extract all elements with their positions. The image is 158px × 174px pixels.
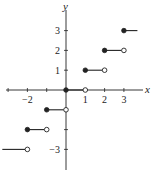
x-tick-label: −2 [22,94,33,105]
open-endpoint [83,88,88,93]
closed-endpoint [83,68,88,73]
x-axis-label: x [144,83,150,95]
closed-endpoint [64,88,69,93]
step-segment [25,127,49,132]
step-segment [102,48,126,53]
x-tick-label: 1 [83,94,88,105]
y-tick-label: −3 [49,144,60,155]
open-endpoint [122,48,127,53]
step-function-chart: x y −2123123−3 [0,0,158,174]
closed-endpoint [44,108,49,113]
step-segment [64,88,88,93]
step-segment [44,108,68,113]
step-segment [2,147,29,152]
open-endpoint [64,108,69,113]
closed-endpoint [122,28,127,33]
y-tick-label: 1 [55,65,60,76]
open-endpoint [25,147,30,152]
step-segment [83,68,107,73]
y-axis-label: y [62,0,68,12]
closed-endpoint [25,127,30,132]
x-tick-label: 2 [102,94,107,105]
closed-endpoint [102,48,107,53]
step-segment [122,28,138,33]
open-endpoint [44,127,49,132]
y-tick-label: 3 [55,25,60,36]
open-endpoint [102,68,107,73]
x-tick-label: 3 [121,94,126,105]
y-tick-label: 2 [55,45,60,56]
axes: x y [6,0,150,170]
